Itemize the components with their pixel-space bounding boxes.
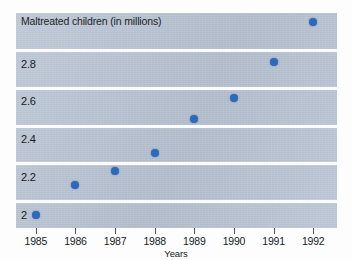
data-point — [71, 181, 79, 189]
plot-area — [16, 13, 337, 228]
data-point — [270, 58, 278, 66]
x-axis-tick-mark — [274, 228, 275, 234]
x-axis-tick-mark — [155, 228, 156, 234]
x-axis-tick-label: 1987 — [104, 235, 127, 247]
data-point — [111, 167, 119, 175]
data-point — [230, 94, 238, 102]
y-axis-tick-label: 2.4 — [21, 133, 36, 145]
chart-figure: Maltreated children (in millions) 2.82.6… — [0, 0, 352, 260]
data-point — [32, 211, 40, 219]
x-axis-tick-label: 1988 — [143, 235, 166, 247]
x-axis-tick-mark — [234, 228, 235, 234]
gridline — [16, 49, 337, 52]
x-axis-tick-label: 1989 — [183, 235, 206, 247]
y-axis-tick-label: 2 — [21, 209, 27, 221]
gridline — [16, 87, 337, 90]
data-point — [190, 115, 198, 123]
x-axis-tick-mark — [75, 228, 76, 234]
x-axis-tick-marks — [16, 228, 337, 234]
x-axis-tick-labels: 19851986198719881989199019911992 — [16, 235, 337, 249]
data-point — [151, 149, 159, 157]
x-axis-tick-label: 1986 — [64, 235, 87, 247]
x-axis-tick-mark — [194, 228, 195, 234]
y-axis-tick-label: 2.8 — [21, 58, 36, 70]
gridline — [16, 200, 337, 203]
x-axis-title: Years — [0, 248, 352, 259]
x-axis-tick-mark — [115, 228, 116, 234]
x-axis-tick-label: 1992 — [302, 235, 325, 247]
gridline — [16, 125, 337, 128]
x-axis-tick-mark — [313, 228, 314, 234]
x-axis-tick-mark — [36, 228, 37, 234]
x-axis-tick-label: 1990 — [223, 235, 246, 247]
data-point — [309, 18, 317, 26]
plot-background-texture — [16, 13, 337, 228]
x-axis-tick-label: 1991 — [262, 235, 285, 247]
chart-title: Maltreated children (in millions) — [21, 15, 161, 27]
gridline — [16, 162, 337, 165]
y-axis-tick-label: 2.6 — [21, 95, 36, 107]
x-axis-tick-label: 1985 — [25, 235, 48, 247]
y-axis-tick-label: 2.2 — [21, 171, 36, 183]
